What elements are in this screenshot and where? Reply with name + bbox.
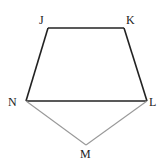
edge-nj [26,28,48,101]
edge-nm [26,101,86,145]
vertex-label-n: N [8,95,17,109]
edge-kl [124,28,147,101]
geometry-diagram: J K L M N [0,0,168,159]
edge-ml [86,101,147,145]
vertex-label-l: L [149,95,156,109]
vertex-label-k: K [126,13,135,27]
vertex-label-m: M [80,147,91,159]
vertex-label-j: J [39,13,44,27]
